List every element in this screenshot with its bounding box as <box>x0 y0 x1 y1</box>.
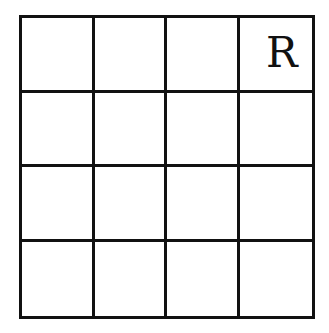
cell-r3-c3 <box>167 167 240 242</box>
cell-label-r: R <box>266 32 298 74</box>
cell-r4-c2 <box>95 242 168 317</box>
cell-r3-c1 <box>22 167 95 242</box>
cell-r2-c1 <box>22 93 95 168</box>
cell-r2-c3 <box>167 93 240 168</box>
cell-r2-c2 <box>95 93 168 168</box>
cell-r2-c4 <box>240 93 313 168</box>
cell-r4-c4 <box>240 242 313 317</box>
cell-r1-c3 <box>167 18 240 93</box>
cell-r1-c2 <box>95 18 168 93</box>
cell-r4-c3 <box>167 242 240 317</box>
cell-r1-c1 <box>22 18 95 93</box>
cell-r4-c1 <box>22 242 95 317</box>
cell-r3-c2 <box>95 167 168 242</box>
cell-r1-c4: R <box>240 18 313 93</box>
grid-4x4: R <box>19 15 315 319</box>
cell-r3-c4 <box>240 167 313 242</box>
